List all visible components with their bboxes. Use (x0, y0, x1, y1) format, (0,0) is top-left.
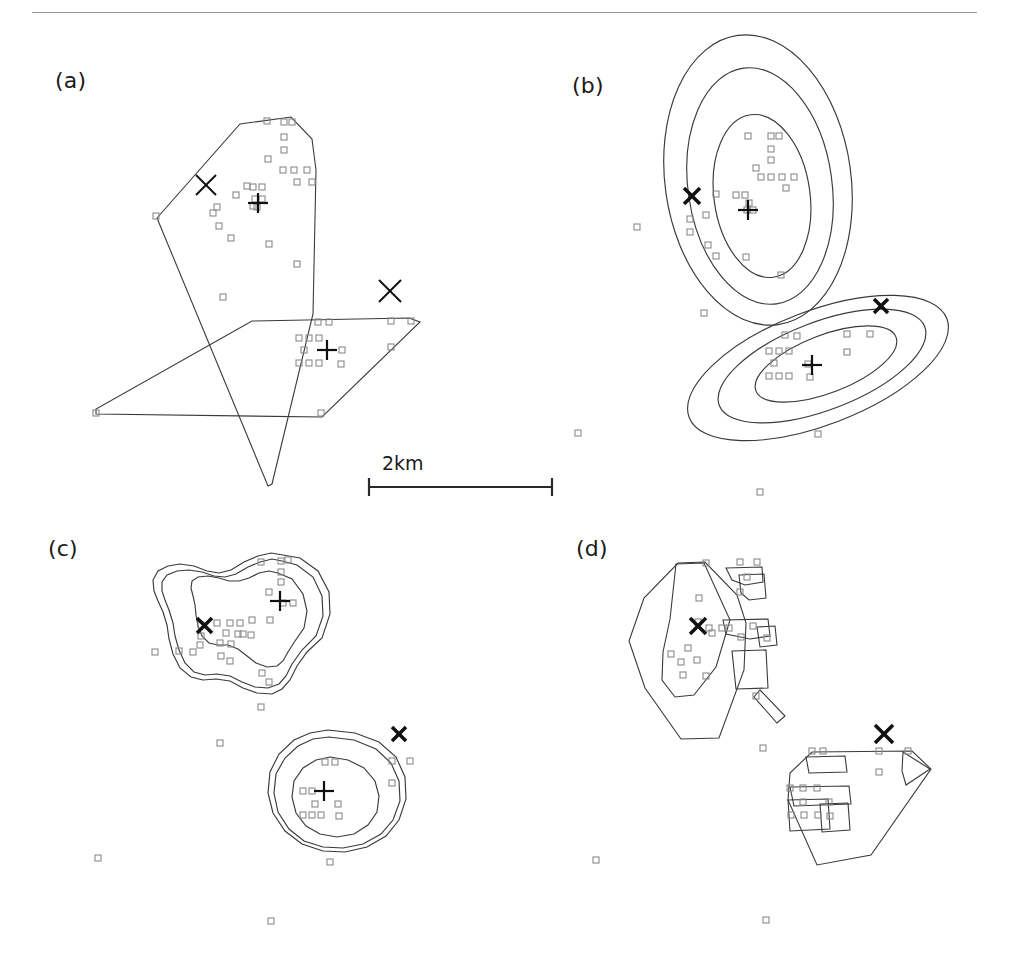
capture-marker-range-2 (392, 727, 406, 741)
centroid-marker-range-2 (314, 781, 334, 801)
panel-c: (c) (0, 0, 505, 960)
fix-points-panel-c (95, 557, 413, 924)
kernel-contours-range-1 (153, 553, 330, 694)
capture-marker-range-1 (197, 618, 212, 633)
panel-d-plot (505, 0, 1009, 960)
panel-c-label: (c) (48, 536, 78, 561)
figure-root: (a) (0, 0, 1009, 960)
kernel-contours-range-2 (268, 730, 406, 852)
centroid-marker-range-1 (270, 591, 290, 611)
capture-marker-range-2 (875, 725, 893, 743)
panel-d-label: (d) (576, 536, 608, 561)
fix-points-panel-d (593, 559, 911, 923)
capture-marker-range-1 (690, 618, 706, 634)
locoh-hulls-range-2 (788, 751, 931, 865)
panel-c-plot (0, 0, 505, 960)
panel-d: (d) (505, 0, 1009, 960)
locoh-hulls-range-1 (629, 562, 785, 739)
